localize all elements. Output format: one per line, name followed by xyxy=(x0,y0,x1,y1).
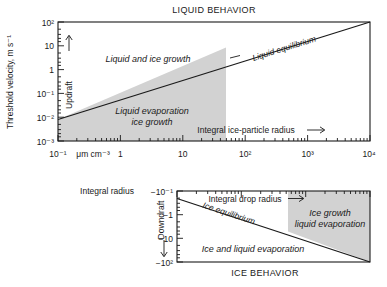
upper-ytick-2: 1 xyxy=(49,65,54,75)
figure-container: LIQUID BEHAVIOR 10² 10 xyxy=(0,0,387,287)
upper-y-axis-label: Threshold velocity, m s⁻¹ xyxy=(5,35,15,129)
updraft-arrow-icon xyxy=(66,35,72,51)
upper-xtick-5: 10⁴ xyxy=(362,149,375,159)
upper-ytick-0: 10² xyxy=(42,18,54,28)
upper-x-tick-labels: 10⁻¹ μm cm⁻³ 1 10 10² 10³ 10⁴ xyxy=(49,149,376,159)
upper-ytick-5: 10⁻³ xyxy=(37,137,54,147)
lower-region-ice-and-liquid-evaporation: Ice and liquid evaporation xyxy=(202,244,305,254)
upper-x-axis-arrow-icon xyxy=(307,127,325,133)
upper-xtick-1: 1 xyxy=(118,149,123,159)
upper-ytick-1: 10 xyxy=(45,41,55,51)
upper-xtick-0: 10⁻¹ xyxy=(49,149,66,159)
upper-xtick-2: 10 xyxy=(178,149,188,159)
downdraft-label: Downdraft xyxy=(156,200,166,239)
lower-region-shaded-line1: Ice growth xyxy=(309,208,351,218)
upper-panel-title: LIQUID BEHAVIOR xyxy=(172,5,256,15)
upper-x-axis-label: Integral ice-particle radius xyxy=(197,125,294,135)
lower-region-shaded-line2: liquid evaporation xyxy=(295,219,366,229)
lower-x-axis-label: Integral drop radius xyxy=(208,194,281,204)
upper-xtick-4: 10³ xyxy=(301,149,313,159)
lower-left-outer-label: Integral radius xyxy=(80,186,134,196)
upper-region-evaporation-line2: ice growth xyxy=(131,117,172,127)
lower-ytick-3: −10² xyxy=(156,258,173,268)
lower-y-ticks xyxy=(177,191,183,262)
upper-x-unit: μm cm⁻³ xyxy=(76,149,110,159)
updraft-label: Updraft xyxy=(64,80,74,109)
upper-ytick-4: 10⁻² xyxy=(37,113,54,123)
lower-curve-label: Ice equilibrium xyxy=(201,200,256,227)
upper-curve-leader xyxy=(230,56,240,59)
lower-panel-title: ICE BEHAVIOR xyxy=(231,268,299,278)
upper-region-liquid-and-ice-growth: Liquid and ice growth xyxy=(105,54,190,64)
upper-y-tick-labels: 10² 10 1 10⁻¹ 10⁻² 10⁻³ xyxy=(37,18,55,147)
upper-region-evaporation-line1: Liquid evaporation xyxy=(115,106,189,116)
upper-curve-label: Liquid equilibrium xyxy=(251,33,317,62)
upper-xtick-3: 10² xyxy=(239,149,251,159)
lower-ytick-0: −10⁻¹ xyxy=(151,187,173,197)
upper-ytick-3: 10⁻¹ xyxy=(37,89,54,99)
two-panel-threshold-velocity-figure: LIQUID BEHAVIOR 10² 10 xyxy=(0,0,387,287)
